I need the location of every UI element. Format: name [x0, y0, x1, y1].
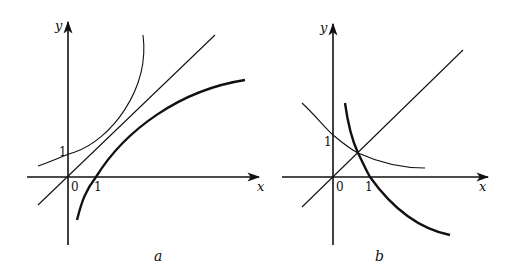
x-axis-label: x: [257, 179, 265, 194]
origin-label: 0: [336, 180, 344, 194]
logarithm-curve: [77, 80, 245, 220]
panel-a: y x 0 1 1 a: [27, 18, 265, 264]
panel-caption-a: a: [154, 248, 162, 264]
panel-caption-b: b: [375, 248, 384, 264]
origin-label: 0: [71, 180, 79, 194]
y-axis-label: y: [319, 20, 328, 35]
x-tick-1-label: 1: [94, 180, 102, 194]
x-tick-1-label: 1: [365, 180, 373, 194]
y-tick-1-label: 1: [324, 135, 332, 149]
x-axis-label: x: [479, 179, 487, 194]
identity-line: [38, 35, 215, 205]
y-axis-label: y: [54, 18, 63, 33]
exponential-curve: [302, 103, 425, 168]
panel-b: y x 0 1 1 b: [282, 20, 488, 264]
figure-canvas: y x 0 1 1 a y x 0 1 1 b: [0, 0, 513, 273]
logarithm-curve: [345, 103, 450, 235]
exponential-curve: [38, 35, 144, 166]
